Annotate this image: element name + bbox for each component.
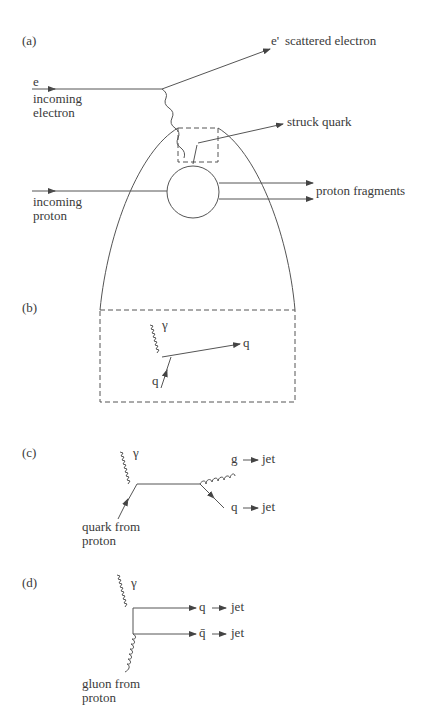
quark-in-arrow-c (118, 499, 128, 519)
photon-label-d: γ (131, 576, 137, 590)
gluon-source-label-1: gluon from (82, 677, 140, 691)
jet-cone-right (218, 128, 295, 310)
jet-label-c2: jet (262, 500, 275, 514)
jet-label-c1: jet (262, 452, 275, 466)
quark-out-c (212, 496, 224, 508)
jet-label-d1: jet (231, 600, 244, 614)
quark-source-label-2: proton (82, 534, 116, 548)
gluon-in-d (125, 634, 136, 672)
incoming-electron-label-1: incoming (33, 92, 82, 106)
scattered-electron-label: scattered electron (285, 34, 376, 48)
panel-label-b: (b) (22, 301, 37, 315)
panel-label-a: (a) (22, 34, 36, 48)
incoming-proton-label-1: incoming (33, 195, 82, 209)
zoom-box-b (100, 310, 295, 402)
quark-out-arrow-c (200, 484, 214, 498)
panel-label-c: (c) (22, 446, 36, 460)
panel-a-diagram (32, 49, 313, 310)
incoming-electron-label-2: electron (33, 106, 75, 120)
proton-blob (167, 166, 219, 218)
gluon-source-label-2: proton (82, 691, 116, 705)
outgoing-quark-label-b: q (243, 336, 250, 350)
incoming-proton-label-2: proton (33, 209, 67, 223)
gluon-out-c (200, 474, 235, 484)
photon-wavy-c (120, 452, 130, 484)
photon-wavy-b (150, 325, 159, 353)
photon-wavy-d (117, 575, 127, 607)
incoming-quark-b (166, 357, 171, 372)
jet-label-d2: jet (231, 626, 244, 640)
quark-photon-link (193, 145, 197, 164)
quark-in-c (127, 484, 137, 502)
scattered-electron-symbol: e' (271, 34, 279, 48)
scattered-electron-line (162, 49, 270, 89)
proton-fragments-label: proton fragments (316, 184, 405, 198)
gluon-label-c: g (231, 452, 238, 466)
antiquark-label-d: q̄ (199, 626, 206, 640)
photon-label-c: γ (133, 446, 139, 460)
panel-b-diagram (100, 310, 295, 402)
quark-label-c: q (231, 500, 238, 514)
quark-label-d: q (199, 600, 206, 614)
struck-quark-line (198, 124, 283, 143)
photon-wavy-line (162, 89, 185, 158)
outgoing-quark-b (162, 344, 240, 357)
quark-source-label-1: quark from (82, 520, 140, 534)
incoming-electron-symbol: e (33, 75, 39, 89)
photon-label-b: γ (162, 318, 168, 332)
incoming-quark-arrow-b (161, 370, 167, 388)
incoming-quark-label-b: q (152, 374, 159, 388)
panel-label-d: (d) (22, 576, 37, 590)
struck-quark-label: struck quark (287, 115, 352, 129)
jet-cone-left (100, 128, 178, 310)
